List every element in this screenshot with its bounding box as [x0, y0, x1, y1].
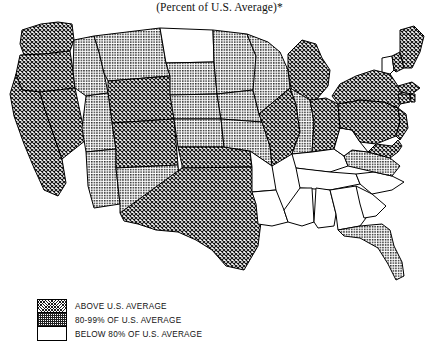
state-or: Oregon: [16, 51, 75, 92]
state-nd: North Dakota: [160, 28, 214, 63]
us-map-svg: WashingtonOregonCaliforniaNevadaIdahoMon…: [0, 18, 439, 283]
legend-swatch-above: [37, 299, 67, 313]
state-mt: Montana: [94, 28, 170, 81]
legend-row-above: ABOVE U.S. AVERAGE: [37, 299, 202, 313]
legend-swatch-mid: [37, 313, 67, 327]
state-ks: Kansas: [174, 119, 224, 147]
legend-swatch-below: [37, 327, 67, 341]
state-ms: Mississippi: [284, 188, 314, 226]
legend-label-below: BELOW 80% OF U.S. AVERAGE: [75, 330, 202, 339]
state-wa: Washington: [20, 22, 74, 55]
legend-row-mid: 80-99% OF U.S. AVERAGE: [37, 313, 202, 327]
state-ct: Connecticut: [398, 94, 410, 104]
state-ne: Nebraska: [170, 94, 221, 119]
legend-row-below: BELOW 80% OF U.S. AVERAGE: [37, 327, 202, 341]
state-wy: Wyoming: [108, 76, 174, 123]
figure-title: (Percent of U.S. Average)*: [0, 1, 439, 13]
choropleth-figure: (Percent of U.S. Average)* WashingtonOre…: [0, 0, 439, 353]
map-legend: ABOVE U.S. AVERAGE 80-99% OF U.S. AVERAG…: [37, 299, 202, 341]
legend-label-mid: 80-99% OF U.S. AVERAGE: [75, 316, 181, 325]
state-sd: South Dakota: [166, 62, 217, 95]
state-me: Maine: [400, 26, 424, 68]
state-fl: Florida: [338, 224, 404, 280]
state-ok: Oklahoma: [178, 147, 252, 168]
state-co: Colorado: [112, 119, 178, 168]
state-ri: Rhode Island: [410, 94, 415, 102]
state-ma: Massachusetts: [398, 82, 420, 94]
us-map: WashingtonOregonCaliforniaNevadaIdahoMon…: [0, 18, 439, 283]
state-az: Arizona: [86, 149, 120, 208]
legend-label-above: ABOVE U.S. AVERAGE: [75, 302, 167, 311]
state-la: Louisiana: [252, 190, 288, 226]
